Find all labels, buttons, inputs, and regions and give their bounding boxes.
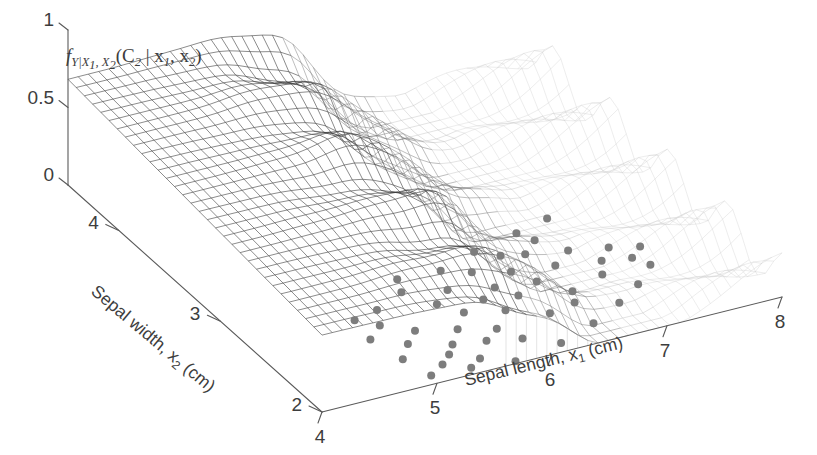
- scatter-point: [531, 236, 539, 244]
- scatter-point: [476, 355, 484, 363]
- scatter-point: [543, 215, 551, 223]
- scatter-point: [437, 267, 445, 275]
- scatter-point: [376, 322, 384, 330]
- scatter-point: [507, 268, 515, 276]
- scatter-point: [546, 309, 554, 317]
- scatter-point: [393, 275, 401, 283]
- scatter-point: [433, 300, 441, 308]
- scatter-point: [533, 278, 541, 286]
- scatter-point: [634, 280, 642, 288]
- scatter-point: [399, 355, 407, 363]
- scatter-point: [605, 243, 613, 251]
- scatter-point: [454, 325, 462, 333]
- scatter-point: [514, 292, 522, 300]
- scatter-point: [404, 340, 412, 348]
- scatter-point: [444, 286, 452, 294]
- scatter-point: [397, 288, 405, 296]
- scatter-point: [569, 287, 577, 295]
- scatter-point: [411, 327, 419, 335]
- z-tick-label: 1: [43, 9, 54, 30]
- scatter-point: [468, 268, 476, 276]
- scatter-point: [636, 243, 644, 251]
- y-tick-label: 3: [190, 303, 201, 324]
- y-tick-label: 4: [88, 212, 99, 233]
- x-tick-label: 5: [430, 397, 441, 418]
- scatter-point: [373, 306, 381, 314]
- scatter-point: [470, 248, 478, 256]
- z-tick-label: 0.5: [28, 87, 54, 108]
- scatter-point: [571, 298, 579, 306]
- scatter-point: [598, 271, 606, 279]
- scatter-point: [493, 325, 501, 333]
- x-tick-label: 4: [315, 426, 326, 447]
- scatter-point: [491, 284, 499, 292]
- scatter-point: [615, 299, 623, 307]
- x-tick-label: 6: [545, 369, 556, 390]
- scatter-point: [479, 296, 487, 304]
- scatter-point: [351, 316, 359, 324]
- scatter-point: [439, 361, 447, 369]
- scatter-point: [502, 306, 510, 314]
- scatter-point: [521, 250, 529, 258]
- scatter-point: [460, 309, 468, 317]
- scatter-point: [445, 351, 453, 359]
- scatter-point: [427, 371, 435, 379]
- y-tick-label: 2: [291, 394, 302, 415]
- x-tick-label: 8: [775, 311, 786, 332]
- scatter-point: [483, 337, 491, 345]
- conditional-probability-surface-figure: 10.5043245678 fY|X1, X2(C2 | x1, x2) Sep…: [0, 0, 817, 455]
- scatter-point: [646, 261, 654, 269]
- scatter-point: [564, 247, 572, 255]
- x-tick-label: 7: [660, 340, 671, 361]
- scatter-point: [598, 257, 606, 265]
- scatter-point: [366, 336, 374, 344]
- z-tick-label: 0: [43, 164, 54, 185]
- scatter-point: [512, 229, 520, 237]
- scatter-point: [590, 319, 598, 327]
- scatter-point: [519, 335, 527, 343]
- scatter-point: [551, 261, 559, 269]
- scatter-point: [449, 341, 457, 349]
- scatter-point: [628, 254, 636, 262]
- scatter-point: [497, 252, 505, 260]
